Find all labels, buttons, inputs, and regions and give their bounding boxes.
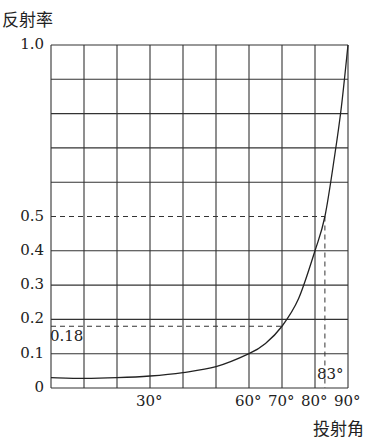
annotation-dashes: [51, 217, 325, 389]
x-tick-label: 80°: [301, 394, 328, 409]
y-tick-label: 0.1: [20, 346, 44, 361]
x-axis-title: 投射角: [313, 415, 364, 440]
x-tick-label: 70°: [268, 394, 295, 409]
x-tick-label: 90°: [334, 394, 361, 409]
x-tick-label: 30°: [136, 394, 163, 409]
y-axis-title: 反射率: [2, 6, 53, 31]
reflectance-curve: [51, 45, 348, 378]
x-tick-label: 60°: [235, 394, 262, 409]
annotation-83-label: 83°: [317, 367, 344, 382]
y-tick-label: 0: [34, 380, 44, 395]
y-tick-label: 0.2: [20, 311, 44, 326]
y-tick-label: 0.3: [20, 277, 44, 292]
y-tick-label: 0.5: [20, 209, 44, 224]
y-tick-label: 0.4: [20, 243, 44, 258]
y-tick-label: 1.0: [20, 37, 44, 52]
annotation-018-label: 0.18: [50, 329, 83, 344]
